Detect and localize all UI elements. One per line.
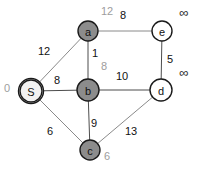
graph-node-d[interactable]: d [150, 79, 172, 101]
node-distance-a: 12 [101, 5, 113, 17]
graph-node-a[interactable]: a [78, 21, 98, 41]
edge-weight-a-b: 1 [92, 47, 98, 59]
edge-weight-e-d: 5 [167, 53, 173, 65]
node-label-e: e [159, 26, 165, 38]
node-label-S: S [27, 86, 34, 98]
node-label-d: d [158, 85, 164, 97]
node-distance-S: 0 [4, 82, 10, 94]
graph-edge-b-c [88, 101, 89, 140]
edge-weight-S-a: 12 [38, 45, 50, 57]
graph-edge-S-c [39, 99, 83, 143]
node-label-a: a [85, 26, 92, 38]
edges-layer [39, 31, 162, 144]
graph-node-S[interactable]: S [19, 79, 44, 104]
graph-node-c[interactable]: c [80, 140, 100, 160]
node-distance-b: 8 [101, 60, 107, 72]
graph-svg: Sabcde 128618910135 01286∞∞ [0, 0, 200, 173]
edge-weight-S-b: 8 [54, 74, 60, 86]
node-distance-c: 6 [104, 150, 110, 162]
graph-edge-S-b [42, 90, 77, 91]
node-distance-e: ∞ [179, 5, 188, 20]
graph-edge-e-d [161, 41, 162, 79]
edge-weight-b-c: 9 [91, 117, 97, 129]
graph-node-b[interactable]: b [77, 79, 99, 101]
edge-weight-b-d: 10 [116, 70, 128, 82]
edge-weight-S-c: 6 [47, 125, 53, 137]
node-label-b: b [85, 85, 91, 97]
edge-weight-a-e: 8 [120, 9, 126, 21]
graph-node-e[interactable]: e [152, 21, 172, 41]
graph-diagram-canvas: Sabcde 128618910135 01286∞∞ [0, 0, 200, 173]
node-label-c: c [87, 145, 93, 157]
node-distance-d: ∞ [179, 65, 188, 80]
edge-weight-c-d: 13 [125, 125, 137, 137]
